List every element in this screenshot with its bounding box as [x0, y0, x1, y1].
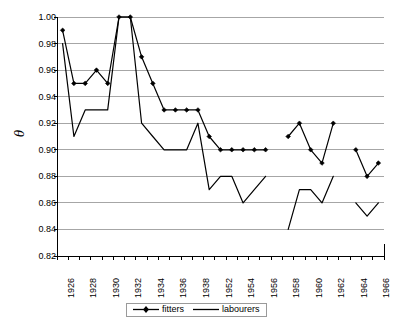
legend-marker-fitters-icon [133, 305, 159, 314]
chart-legend: fitters labourers [126, 303, 267, 317]
legend-label-fitters: fitters [162, 305, 184, 314]
axis-lines [54, 17, 384, 256]
legend-marker-labourers-icon [193, 305, 219, 314]
x-axis-tick-label: 1960 [315, 264, 324, 298]
x-axis-tick-label: 1962 [337, 264, 346, 298]
chart-container: θ 1.000.980.960.940.920.900.880.860.840.… [0, 0, 397, 328]
x-axis-tick-labels: 1926192819301932193419361938195219541956… [0, 262, 397, 308]
x-axis-tick-label: 1966 [382, 264, 391, 298]
legend-item-labourers: labourers [193, 305, 260, 314]
x-axis-tick-label: 1932 [134, 264, 143, 298]
legend-label-labourers: labourers [222, 305, 260, 314]
x-axis-tick-label: 1934 [157, 264, 166, 298]
x-axis-ticks [57, 256, 384, 260]
x-axis-tick-label: 1952 [225, 264, 234, 298]
legend-item-fitters: fitters [133, 305, 184, 314]
x-axis-tick-label: 1928 [89, 264, 98, 298]
gridlines [57, 17, 384, 256]
x-axis-tick-label: 1930 [112, 264, 121, 298]
x-axis-tick-label: 1926 [67, 264, 76, 298]
x-axis-tick-label: 1956 [270, 264, 279, 298]
x-axis-tick-label: 1954 [247, 264, 256, 298]
x-axis-tick-label: 1936 [179, 264, 188, 298]
x-axis-tick-label: 1964 [360, 264, 369, 298]
x-axis-tick-label: 1938 [202, 264, 211, 298]
x-axis-tick-label: 1958 [292, 264, 301, 298]
